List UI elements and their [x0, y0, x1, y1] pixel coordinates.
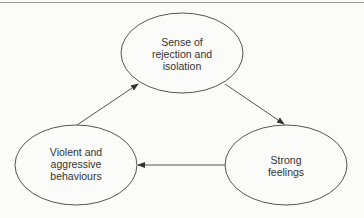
node-feelings-label: Strong feelings: [231, 154, 341, 178]
node-behaviours-line-3: behaviours: [21, 170, 131, 182]
node-rejection-line-1: Sense of: [127, 36, 237, 48]
diagram-canvas: Sense of rejection and isolation Strong …: [0, 0, 364, 218]
cycle-diagram: [0, 0, 364, 218]
node-rejection-line-2: rejection and: [127, 48, 237, 60]
node-behaviours-label: Violent and aggressive behaviours: [21, 146, 131, 182]
node-behaviours-line-2: aggressive: [21, 158, 131, 170]
arrow-rejection-to-feelings: [225, 84, 284, 124]
arrow-behaviours-to-rejection: [77, 84, 138, 125]
node-behaviours-line-1: Violent and: [21, 146, 131, 158]
node-rejection-label: Sense of rejection and isolation: [127, 36, 237, 72]
node-rejection-line-3: isolation: [127, 60, 237, 72]
node-feelings-line-1: Strong: [231, 154, 341, 166]
node-feelings-line-2: feelings: [231, 166, 341, 178]
